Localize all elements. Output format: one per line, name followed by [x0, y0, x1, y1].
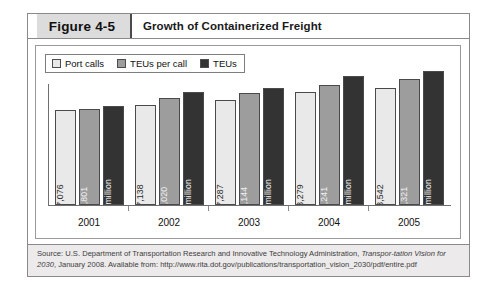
bar-group-2003: 17,2873,14454 million	[209, 90, 289, 205]
x-axis-label-2004: 2004	[289, 217, 369, 228]
bar-2005-teus-per-call: 3,321	[399, 79, 420, 205]
legend-item-teus-per-call: TEUs per call	[117, 58, 187, 69]
figure-container: Figure 4-5 Growth of Containerized Freig…	[27, 13, 470, 277]
bar-2001-teus-per-call: 2,801	[79, 109, 100, 205]
bar-2004-port-calls: 18,279	[295, 92, 316, 205]
source-line1-plain: Source: U.S. Department of Transportatio…	[37, 249, 361, 258]
bar-2004-teus: 59 million	[343, 76, 364, 205]
bar-2002-port-calls: 17,138	[135, 105, 156, 205]
bar-value-label: 18,279	[295, 184, 305, 205]
x-axis-tick	[209, 206, 289, 211]
bar-value-label: 48 million	[103, 179, 113, 205]
bar-value-label: 62 million	[423, 179, 433, 205]
x-axis-tick	[289, 206, 369, 211]
bar-groups: 17,0762,80148 million17,1383,02052 milli…	[49, 90, 449, 205]
chart-area: Port calls TEUs per call TEUs 17,0762,80…	[28, 39, 469, 245]
x-axis-tick	[49, 206, 129, 211]
x-axis-label-2001: 2001	[49, 217, 129, 228]
bar-value-label: 52 million	[183, 179, 193, 205]
bar-2005-teus: 62 million	[423, 71, 444, 205]
bar-group-2005: 18,5423,32162 million	[369, 90, 449, 205]
bar-2001-teus: 48 million	[103, 106, 124, 205]
legend-swatch-teus-per-call	[117, 59, 126, 68]
bar-group-2004: 18,2793,24159 million	[289, 90, 369, 205]
legend-label-port-calls: Port calls	[65, 58, 104, 69]
bar-2003-teus: 54 million	[263, 88, 284, 205]
bar-2003-teus-per-call: 3,144	[239, 93, 260, 205]
bar-2002-teus-per-call: 3,020	[159, 98, 180, 205]
plot-region: 17,0762,80148 million17,1383,02052 milli…	[48, 90, 449, 206]
source-line3: vision_2030/pdf/entire.pdf	[330, 260, 417, 269]
x-axis-label-2002: 2002	[129, 217, 209, 228]
figure-number-label: Figure 4-5	[43, 19, 116, 34]
bar-value-label: 3,241	[319, 187, 329, 205]
bar-group-2001: 17,0762,80148 million	[49, 90, 129, 205]
bar-2005-port-calls: 18,542	[375, 88, 396, 205]
bar-group-2002: 17,1383,02052 million	[129, 90, 209, 205]
source-note: Source: U.S. Department of Transportatio…	[28, 244, 469, 276]
x-axis-ticks	[49, 206, 449, 211]
figure-title-wrap: Growth of Containerized Freight	[132, 14, 469, 38]
figure-number-tab: Figure 4-5	[28, 14, 132, 38]
bar-value-label: 17,287	[215, 184, 225, 205]
x-axis-tick	[369, 206, 449, 211]
bar-2004-teus-per-call: 3,241	[319, 85, 340, 205]
x-axis-label-2005: 2005	[369, 217, 449, 228]
figure-title: Growth of Containerized Freight	[143, 20, 322, 32]
bar-2001-port-calls: 17,076	[55, 110, 76, 205]
chart-frame: Port calls TEUs per call TEUs 17,0762,80…	[35, 45, 461, 239]
legend-label-teus: TEUs	[213, 58, 237, 69]
source-line2-plain: , January 2008. Available from: http://w…	[54, 260, 330, 269]
bar-value-label: 3,321	[399, 187, 409, 205]
legend-item-teus: TEUs	[200, 58, 237, 69]
legend-swatch-teus	[200, 59, 209, 68]
bar-value-label: 3,144	[239, 187, 249, 205]
bar-value-label: 17,138	[135, 184, 145, 205]
x-axis-tick	[129, 206, 209, 211]
legend-swatch-port-calls	[52, 59, 61, 68]
chart-legend: Port calls TEUs per call TEUs	[45, 54, 245, 73]
bar-2003-port-calls: 17,287	[215, 100, 236, 205]
bar-value-label: 3,020	[159, 187, 169, 205]
bar-value-label: 18,542	[375, 184, 385, 205]
x-axis-label-2003: 2003	[209, 217, 289, 228]
bar-2002-teus: 52 million	[183, 92, 204, 205]
figure-header: Figure 4-5 Growth of Containerized Freig…	[28, 14, 469, 39]
x-axis-category-labels: 20012002200320042005	[49, 217, 449, 228]
legend-item-port-calls: Port calls	[52, 58, 104, 69]
source-note-text: Source: U.S. Department of Transportatio…	[37, 249, 460, 271]
bar-value-label: 54 million	[263, 179, 273, 205]
bar-value-label: 2,801	[79, 187, 89, 205]
source-line1-italic: Transpor-	[361, 249, 393, 258]
bar-value-label: 59 million	[343, 179, 353, 205]
legend-label-teus-per-call: TEUs per call	[130, 58, 187, 69]
bar-value-label: 17,076	[55, 184, 65, 205]
